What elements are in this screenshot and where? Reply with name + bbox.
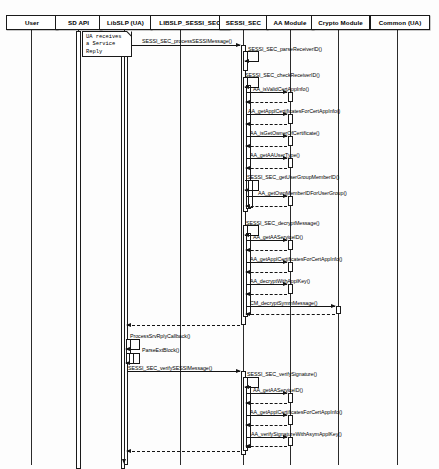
message-3-label: SESSI_SEC_checkReceiverID() — [245, 72, 320, 78]
message-30-line — [246, 403, 287, 404]
message-11-arrowhead — [245, 166, 250, 170]
message-1-label: SESSI_SEC_processSESSIMessage() — [142, 38, 232, 44]
message-24-arrowhead — [126, 323, 131, 327]
message-32-arrowhead — [245, 423, 250, 427]
note-fold-corner — [127, 31, 132, 36]
sequence-diagram-canvas: SESSI_SEC_processSESSIMessage()SESSI_SEC… — [0, 0, 439, 469]
message-16-line — [246, 240, 287, 241]
message-1-line — [127, 45, 240, 46]
participant-crypto[interactable]: Crypto Module — [311, 15, 370, 30]
message-33-line — [246, 437, 287, 438]
lifeline-crypto — [338, 30, 339, 465]
message-22-line — [246, 306, 335, 307]
message-13-label: AA_getOwnMemberIDForUserGroup() — [258, 190, 347, 196]
message-24-line — [127, 325, 240, 326]
message-20-label: AA_decryptWithApplKey() — [250, 278, 310, 284]
message-31-label: AA_getApplCertificatesForCertAppInfo() — [250, 409, 342, 415]
lifeline-libsec — [180, 30, 181, 465]
message-1-arrowhead — [236, 43, 241, 47]
activation-bar-crypto — [336, 306, 341, 314]
note-ua-receives-service-reply: UA receives a Service Reply — [82, 31, 132, 57]
message-26-label: ParseExtBlock() — [142, 347, 179, 353]
message-19-arrowhead — [245, 270, 250, 274]
message-2-arrowhead — [244, 59, 249, 63]
message-27-line — [127, 371, 240, 372]
message-28-arrowhead — [244, 385, 249, 389]
participant-user[interactable]: User — [6, 15, 58, 30]
message-8-label: AA_isGetOwnerOfCertificate() — [250, 130, 320, 136]
message-35-line — [127, 451, 240, 452]
activation-bar-aa — [288, 114, 293, 124]
participant-common[interactable]: Common (UA) — [370, 15, 430, 30]
message-17-arrowhead — [245, 248, 250, 252]
activation-bar-aa — [288, 158, 293, 168]
message-33-label: AA_verifySignatureWithAsymApplKey() — [251, 431, 342, 437]
activation-bar-aa — [288, 437, 293, 446]
message-13-line — [246, 196, 287, 197]
message-5-arrowhead — [245, 100, 250, 104]
message-22-label: CM_decryptSymmMessage() — [250, 300, 317, 306]
message-21-line — [246, 294, 287, 295]
message-2-label: SESSI_SEC_parseReceiverID() — [248, 46, 322, 52]
participant-libslp[interactable]: LibSLP (UA) — [99, 15, 152, 30]
message-14-line — [246, 206, 287, 207]
participant-libsec[interactable]: LIBSLP_SESSI_SEC — [150, 15, 230, 30]
message-22-arrowhead — [331, 304, 336, 308]
participant-aa[interactable]: AA Module — [266, 15, 314, 30]
message-34-arrowhead — [245, 444, 250, 448]
message-18-label: AA_getApplCertificatesForCertAppInfo() — [250, 256, 342, 262]
message-4-label: AA_isValidCertAppInfo() — [253, 86, 309, 92]
activation-bar-sessi — [246, 386, 251, 448]
activation-bar-aa — [288, 262, 293, 272]
message-31-line — [246, 415, 287, 416]
message-9-line — [246, 146, 287, 147]
message-29-line — [246, 393, 287, 394]
lifeline-common — [397, 30, 398, 465]
message-16-label: AA_getAAServiceID() — [253, 234, 303, 240]
activation-bar-aa — [288, 393, 293, 403]
terminal-arrowhead — [122, 459, 126, 464]
message-12-label: SESSI_SEC_getUserGroupMemberID() — [247, 174, 339, 180]
message-18-line — [246, 262, 287, 263]
message-35-arrowhead — [126, 449, 131, 453]
activation-bar-libslp — [124, 40, 128, 465]
activation-bar-aa — [288, 136, 293, 146]
message-8-line — [246, 136, 287, 137]
message-7-line — [246, 124, 287, 125]
message-15-arrowhead — [244, 233, 249, 237]
message-27-label: SESSI_SEC_verifySESSIMessage() — [128, 365, 212, 371]
message-25-label: ProcessSrvRplyCallback() — [130, 333, 190, 339]
message-21-arrowhead — [245, 292, 250, 296]
message-32-line — [246, 425, 287, 426]
message-11-line — [246, 168, 287, 169]
message-6-label: AA_getApplCertificatesForCertAppInfo() — [248, 108, 340, 114]
activation-bar-aa — [288, 92, 293, 102]
message-28-label: SESSI_SEC_verifySignature() — [247, 371, 317, 377]
message-30-arrowhead — [245, 401, 250, 405]
message-25-arrowhead — [125, 347, 130, 351]
message-5-line — [246, 102, 287, 103]
message-10-line — [246, 158, 287, 159]
message-14-arrowhead — [245, 204, 250, 208]
message-23-arrowhead — [245, 312, 250, 316]
message-17-line — [246, 250, 287, 251]
activation-bar-aa — [288, 240, 293, 250]
message-3-arrowhead — [244, 85, 249, 89]
message-12-arrowhead — [244, 188, 249, 192]
activation-bar-aa — [288, 415, 293, 425]
activation-bar-aa — [288, 196, 293, 206]
message-7-arrowhead — [245, 122, 250, 126]
message-10-label: AA_getAAUserType() — [250, 152, 300, 158]
message-29-label: AA_getAAServiceID() — [253, 387, 303, 393]
message-4-line — [246, 92, 287, 93]
message-23-line — [246, 314, 335, 315]
message-20-line — [246, 284, 287, 285]
participant-sessi[interactable]: SESSI_SEC — [219, 15, 268, 30]
activation-bar-sdapi — [76, 31, 81, 469]
message-19-line — [246, 272, 287, 273]
participant-sdapi[interactable]: SD API — [55, 15, 102, 30]
message-27-arrowhead — [236, 369, 241, 373]
message-6-line — [246, 114, 287, 115]
activation-bar-aa — [288, 284, 293, 294]
lifeline-user — [31, 30, 32, 465]
